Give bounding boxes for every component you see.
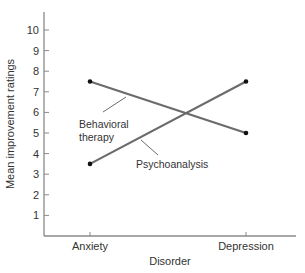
series-label-line: Behavioral	[79, 118, 129, 130]
y-tick-label: 8	[33, 65, 39, 77]
data-point-behavioral-therapy	[244, 131, 249, 136]
y-tick-label: 9	[33, 45, 39, 57]
y-tick-label: 6	[33, 106, 39, 118]
x-axis-ticks: AnxietyDepression	[72, 232, 274, 252]
y-tick-label: 7	[33, 86, 39, 98]
y-axis-label: Mean improvement ratings	[4, 58, 16, 189]
data-point-psychoanalysis	[88, 162, 93, 167]
x-tick-label-depression: Depression	[218, 240, 274, 252]
y-axis-ticks: 12345678910	[27, 24, 49, 221]
y-tick-label: 5	[33, 127, 39, 139]
line-chart: 12345678910 AnxietyDepression Behavioral…	[0, 0, 305, 273]
data-point-behavioral-therapy	[88, 79, 93, 84]
x-tick-label-anxiety: Anxiety	[72, 240, 109, 252]
series-label-behavioral-therapy: Behavioraltherapy	[79, 118, 129, 143]
series-label-psychoanalysis: Psychoanalysis	[136, 158, 208, 170]
y-tick-label: 3	[33, 168, 39, 180]
y-tick-label: 10	[27, 24, 39, 36]
leader-line-psychoanalysis	[141, 140, 158, 155]
series-label-line: therapy	[79, 131, 115, 143]
y-tick-label: 2	[33, 189, 39, 201]
leader-line-behavioral-therapy	[103, 97, 126, 112]
data-point-psychoanalysis	[244, 79, 249, 84]
chart-canvas: 12345678910 AnxietyDepression Behavioral…	[0, 0, 305, 273]
x-axis-label: Disorder	[149, 255, 191, 267]
y-tick-label: 1	[33, 209, 39, 221]
y-tick-label: 4	[33, 148, 39, 160]
